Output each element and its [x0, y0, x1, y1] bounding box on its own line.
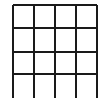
grid-drawing: [0, 0, 110, 98]
grid-canvas: [0, 0, 110, 98]
